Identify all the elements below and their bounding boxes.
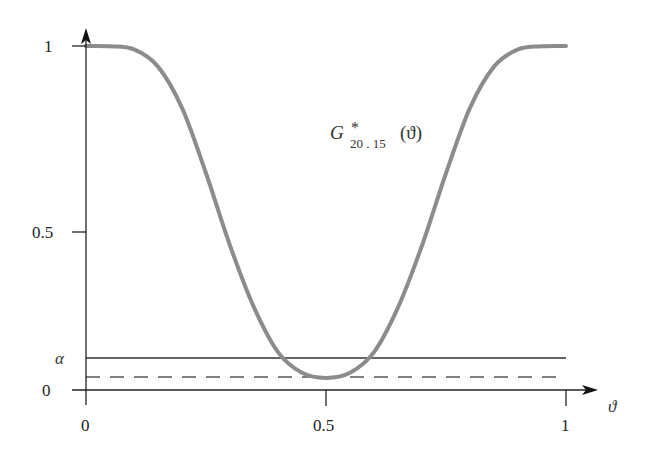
y-tick-label-05: 0.5 <box>32 223 53 242</box>
x-axis-label: ϑ <box>608 397 618 416</box>
y-tick-label-alpha: α <box>55 349 65 368</box>
curve-label-arg: (ϑ) <box>400 122 422 144</box>
power-curve <box>86 46 566 378</box>
y-tick-label-0: 0 <box>42 381 51 400</box>
x-tick-label-0: 0 <box>81 416 90 435</box>
x-tick-label-05: 0.5 <box>313 416 334 435</box>
curve-label-main: G <box>330 122 344 143</box>
curve-label: G * 20 . 15 (ϑ) <box>330 119 422 151</box>
curve-label-sup: * <box>351 119 359 136</box>
power-function-chart: 1 0.5 α 0 0 0.5 1 ϑ G * 20 . 15 (ϑ) <box>0 0 647 451</box>
curve-label-sub: 20 . 15 <box>350 136 386 151</box>
y-tick-label-1: 1 <box>44 37 53 56</box>
x-tick-label-1: 1 <box>561 416 570 435</box>
